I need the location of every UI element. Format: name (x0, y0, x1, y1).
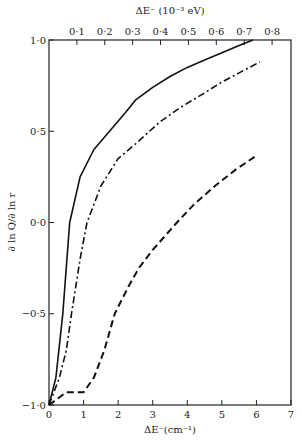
svg-text:1·0: 1·0 (30, 35, 46, 46)
svg-text:5: 5 (219, 409, 225, 420)
svg-text:6: 6 (253, 409, 259, 420)
plot-frame (49, 40, 291, 405)
svg-text:7: 7 (288, 409, 294, 420)
x-axis-label: ΔE⁻(cm⁻¹) (144, 424, 196, 435)
svg-text:0: 0 (46, 409, 52, 420)
line-chart: 01234567 0·10·20·30·40·50·60·70·8 −1·0−0… (0, 0, 302, 442)
svg-text:−0·5: −0·5 (22, 308, 46, 319)
svg-text:0·1: 0·1 (69, 26, 85, 37)
svg-text:1: 1 (80, 409, 86, 420)
series-dash-dot (49, 62, 260, 405)
svg-text:0·8: 0·8 (264, 26, 280, 37)
svg-text:0·5: 0·5 (30, 126, 46, 137)
x-axis-ticks: 01234567 (46, 400, 294, 420)
series-dashed (49, 157, 255, 405)
svg-text:0·6: 0·6 (208, 26, 224, 37)
svg-text:0·3: 0·3 (125, 26, 141, 37)
svg-text:4: 4 (184, 409, 190, 420)
series-lines (49, 40, 260, 405)
svg-text:0·7: 0·7 (236, 26, 252, 37)
top-x-axis-label: ΔE⁻ (10⁻³ eV) (135, 5, 204, 16)
svg-text:2: 2 (115, 409, 121, 420)
svg-text:−1·0: −1·0 (22, 400, 46, 411)
svg-text:0·2: 0·2 (97, 26, 113, 37)
svg-text:3: 3 (150, 409, 156, 420)
svg-text:0·5: 0·5 (180, 26, 196, 37)
svg-text:0·0: 0·0 (30, 217, 46, 228)
series-solid (49, 40, 253, 405)
svg-text:0·4: 0·4 (153, 26, 169, 37)
y-axis-label: ∂ ln Q/∂ ln r (6, 192, 17, 251)
